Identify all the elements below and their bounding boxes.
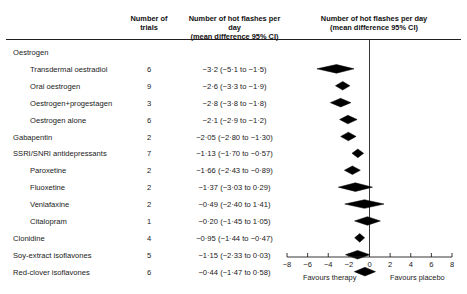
row-effect-estimate: −0·95 (−1·44 to −0·47): [182, 230, 287, 247]
row-effect-estimate: −2·8 (−3·8 to −1·8): [182, 95, 287, 112]
row-trials-count: 7: [118, 145, 180, 162]
x-axis-tick-label: 0: [360, 260, 380, 270]
row-effect-estimate: −2·1 (−2·9 to −1·2): [182, 112, 287, 129]
x-axis-tick-label: 4: [401, 260, 421, 270]
row-trials-count: 6: [118, 112, 180, 129]
x-axis-tick-label: −6: [298, 260, 318, 270]
table-row: Paroxetine2−1·66 (−2·43 to −0·89): [0, 162, 467, 179]
x-axis-tick-label: −2: [339, 260, 359, 270]
row-effect-estimate: −1·37 (−3·03 to 0·29): [182, 179, 287, 196]
x-axis-tick-label: 2: [380, 260, 400, 270]
x-axis-tick-label: 8: [442, 260, 462, 270]
row-effect-estimate: −0·20 (−1·45 to 1·05): [182, 213, 287, 230]
table-row: Oral oestrogen9−2·6 (−3·3 to −1·9): [0, 78, 467, 95]
table-row: Citalopram1−0·20 (−1·45 to 1·05): [0, 213, 467, 230]
row-label: Oestrogen alone: [30, 112, 86, 129]
table-row: Oestrogen alone6−2·1 (−2·9 to −1·2): [0, 112, 467, 129]
row-label: Citalopram: [30, 213, 67, 230]
row-label: SSRI/SNRI antidepressants: [13, 145, 107, 162]
row-label: Soy-extract isoflavones: [13, 247, 92, 264]
table-row: Oestrogen+progestagen3−2·8 (−3·8 to −1·8…: [0, 95, 467, 112]
row-trials-count: 4: [118, 230, 180, 247]
row-label: Gabapentin: [13, 129, 52, 146]
row-trials-count: 3: [118, 95, 180, 112]
row-trials-count: 2: [118, 179, 180, 196]
row-label: Oral oestrogen: [30, 78, 80, 95]
row-trials-count: 9: [118, 78, 180, 95]
table-body: OestrogenTransdermal oestradiol6−3·2 (−5…: [0, 0, 467, 294]
row-effect-estimate: −1·66 (−2·43 to −0·89): [182, 162, 287, 179]
forest-plot-figure: Number oftrials Number of hot flashes pe…: [0, 0, 467, 294]
row-label: Fluoxetine: [30, 179, 65, 196]
row-trials-count: 6: [118, 61, 180, 78]
row-trials-count: 2: [118, 162, 180, 179]
row-trials-count: 1: [118, 213, 180, 230]
row-label: Clonidine: [13, 230, 45, 247]
table-row: Fluoxetine2−1·37 (−3·03 to 0·29): [0, 179, 467, 196]
x-axis-tick-label: −4: [318, 260, 338, 270]
table-row: Transdermal oestradiol6−3·2 (−5·1 to −1·…: [0, 61, 467, 78]
table-row: Clonidine4−0·95 (−1·44 to −0·47): [0, 230, 467, 247]
row-trials-count: 2: [118, 129, 180, 146]
row-label: Venlafaxine: [30, 196, 69, 213]
row-label: Transdermal oestradiol: [30, 61, 107, 78]
row-label: Oestrogen: [13, 44, 48, 61]
x-axis-tick-label: −8: [277, 260, 297, 270]
row-label: Oestrogen+progestagen: [30, 95, 112, 112]
row-trials-count: 6: [118, 264, 180, 281]
row-effect-estimate: −1·13 (−1·70 to −0·57): [182, 145, 287, 162]
table-row: Venlafaxine2−0·49 (−2·40 to 1·41): [0, 196, 467, 213]
x-axis-tick-label: 6: [421, 260, 441, 270]
row-label: Red-clover isoflavones: [13, 264, 90, 281]
row-effect-estimate: −1·15 (−2·33 to 0·03): [182, 247, 287, 264]
row-trials-count: 5: [118, 247, 180, 264]
row-effect-estimate: −2·6 (−3·3 to −1·9): [182, 78, 287, 95]
row-effect-estimate: −2·05 (−2·80 to −1·30): [182, 129, 287, 146]
table-row: Gabapentin2−2·05 (−2·80 to −1·30): [0, 129, 467, 146]
row-label: Paroxetine: [30, 162, 66, 179]
favours-therapy-label: Favours therapy: [303, 273, 356, 283]
row-effect-estimate: −0·49 (−2·40 to 1·41): [182, 196, 287, 213]
table-row: SSRI/SNRI antidepressants7−1·13 (−1·70 t…: [0, 145, 467, 162]
favours-placebo-label: Favours placebo: [390, 273, 445, 283]
table-row: Oestrogen: [0, 44, 467, 61]
row-effect-estimate: −0·44 (−1·47 to 0·58): [182, 264, 287, 281]
row-effect-estimate: −3·2 (−5·1 to −1·5): [182, 61, 287, 78]
row-trials-count: 2: [118, 196, 180, 213]
